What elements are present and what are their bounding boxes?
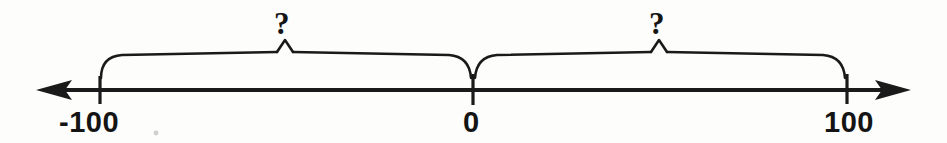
brace-right-peak	[651, 40, 667, 52]
axis-label-minus-100: -100	[59, 108, 119, 137]
brace-left-label: ?	[274, 8, 290, 39]
axis-label-100: 100	[824, 108, 874, 137]
number-line-figure: ? ? -100 0 100	[0, 0, 947, 143]
brace-left-peak	[277, 40, 293, 52]
brace-left	[101, 52, 471, 78]
brace-right	[475, 52, 845, 78]
brace-right-label: ?	[649, 8, 665, 39]
scan-speck	[154, 131, 159, 136]
axis-label-zero: 0	[463, 108, 480, 137]
